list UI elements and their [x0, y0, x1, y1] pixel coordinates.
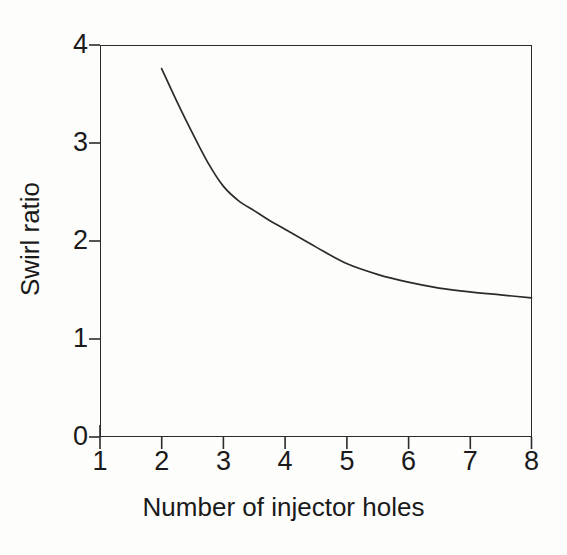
- x-tick-label-1: 1: [80, 446, 120, 476]
- y-axis-title: Swirl ratio: [15, 139, 45, 339]
- plot-area: [100, 45, 532, 437]
- x-tick-label-4: 4: [265, 446, 305, 476]
- x-tick-label-2: 2: [142, 446, 182, 476]
- y-tick-label-2: 2: [52, 227, 88, 254]
- y-tick-label-3: 3: [52, 129, 88, 156]
- chart-figure: 0 1 2 3 4 1 2 3 4 5 6 7 8 Number of inje…: [0, 0, 567, 555]
- y-tick-marks: [89, 45, 100, 437]
- y-tick-label-4: 4: [52, 31, 88, 58]
- x-tick-label-3: 3: [203, 446, 243, 476]
- x-axis-title: Number of injector holes: [0, 492, 567, 522]
- y-tick-label-1: 1: [52, 325, 88, 352]
- x-tick-label-5: 5: [327, 446, 367, 476]
- x-tick-label-6: 6: [389, 446, 429, 476]
- x-tick-label-7: 7: [450, 446, 490, 476]
- x-tick-label-8: 8: [512, 446, 552, 476]
